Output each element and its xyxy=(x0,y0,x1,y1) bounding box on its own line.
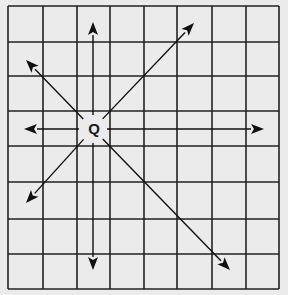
point-q-label: Q xyxy=(85,119,103,139)
arrowhead-icon xyxy=(88,257,98,270)
arrow-down-right xyxy=(103,139,221,261)
grid-diagram xyxy=(0,0,288,295)
arrowhead-icon xyxy=(88,22,98,35)
arrowhead-icon xyxy=(24,124,37,134)
arrowhead-icon xyxy=(251,124,264,134)
